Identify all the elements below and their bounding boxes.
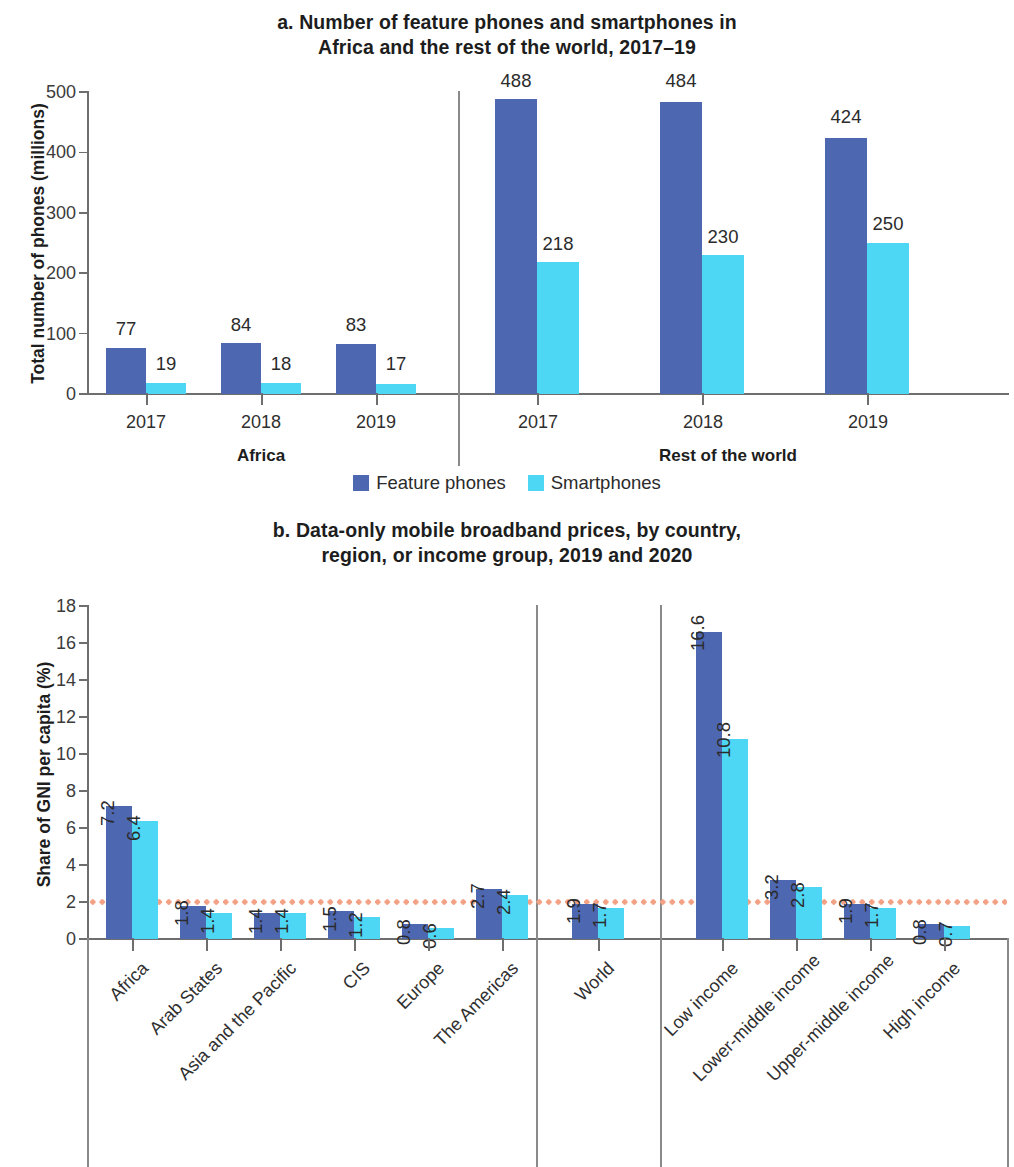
x-tick-mark: [206, 938, 208, 951]
y-tick-mark: [79, 272, 87, 274]
chart-a-group-label-rest-of-world: Rest of the world: [603, 446, 853, 466]
y-tick-mark: [79, 212, 87, 214]
y-tick-label: 300: [16, 202, 76, 223]
bar-smartphones[interactable]: [261, 383, 301, 394]
bar-value-label: 1.7: [589, 902, 611, 928]
bar-smartphones[interactable]: [537, 262, 579, 394]
chart-b-frame-left: [87, 938, 89, 1167]
chart-a-feature-phones-smartphones: a. Number of feature phones and smartpho…: [0, 0, 1014, 510]
y-tick-mark: [79, 152, 87, 154]
bar-value-label: 2.7: [467, 883, 489, 909]
y-tick-label: 4: [18, 855, 76, 876]
bar-value-label: 2.4: [493, 889, 515, 915]
chart-a-group-label-africa: Africa: [161, 446, 361, 466]
bar-smartphones[interactable]: [376, 384, 416, 394]
bar-value-label: 488: [485, 70, 547, 92]
x-category-label: 2017: [96, 412, 196, 433]
y-tick-label: 0: [16, 384, 76, 405]
bar-smartphones[interactable]: [702, 255, 744, 394]
bar-value-label: 218: [527, 233, 589, 255]
bar-value-label: 250: [857, 213, 919, 235]
x-tick-mark: [537, 393, 539, 405]
x-tick-mark: [722, 938, 724, 951]
x-category-label: 2018: [211, 412, 311, 433]
bar-value-label: 77: [96, 318, 156, 340]
chart-a-plot-area: 0 100 200 300 400 500 77 19: [88, 92, 1008, 394]
bar-value-label: 1.4: [197, 908, 219, 934]
y-tick-mark: [79, 91, 87, 93]
bar-value-label: 83: [326, 314, 386, 336]
chart-b-title-line2: region, or income group, 2019 and 2020: [0, 543, 1014, 568]
y-tick-label: 200: [16, 263, 76, 284]
x-tick-mark: [280, 938, 282, 951]
bar-value-label: 1.2: [345, 912, 367, 938]
bar-value-label: 1.4: [245, 908, 267, 934]
x-tick-mark: [702, 393, 704, 405]
bar-value-label: 0.7: [935, 921, 957, 947]
y-tick-label: 0: [18, 929, 76, 950]
chart-b-title: b. Data-only mobile broadband prices, by…: [0, 518, 1014, 568]
legend-item-feature-phones[interactable]: Feature phones: [353, 472, 506, 494]
x-category-label: 2019: [326, 412, 426, 433]
x-tick-mark: [428, 938, 430, 951]
chart-b-y-axis-label: Share of GNI per capita (%): [34, 662, 54, 888]
bar-value-label: 0.8: [393, 919, 415, 945]
bar-value-label: 424: [815, 106, 877, 128]
x-category-label: 2019: [818, 412, 918, 433]
y-tick-label: 2: [18, 892, 76, 913]
x-category-label: Africa: [25, 958, 153, 1086]
chart-b-title-line1: b. Data-only mobile broadband prices, by…: [273, 519, 741, 541]
y-tick-label: 100: [16, 323, 76, 344]
x-tick-mark: [944, 938, 946, 951]
bar-2019[interactable]: [696, 632, 722, 939]
chart-b-mobile-broadband-prices: b. Data-only mobile broadband prices, by…: [0, 516, 1014, 1167]
bar-value-label: 1.7: [861, 902, 883, 928]
x-tick-mark: [354, 938, 356, 951]
bar-value-label: 0.8: [909, 919, 931, 945]
bar-value-label: 19: [136, 353, 196, 375]
x-tick-mark: [796, 938, 798, 951]
bar-value-label: 17: [366, 353, 426, 375]
chart-b-group-separator-2: [660, 605, 662, 1167]
y-tick-mark: [79, 753, 87, 755]
chart-b-group-separator-1: [536, 605, 538, 1167]
chart-a-title: a. Number of feature phones and smartpho…: [0, 10, 1014, 60]
legend-item-smartphones[interactable]: Smartphones: [528, 472, 661, 494]
bar-value-label: 1.9: [563, 898, 585, 924]
y-tick-label: 18: [18, 596, 76, 617]
chart-b-plot-area: 0 2 4 6 8 10 12 14 16 18: [88, 606, 1008, 939]
bar-value-label: 3.2: [761, 874, 783, 900]
chart-a-legend: Feature phones Smartphones: [0, 472, 1014, 494]
bar-smartphones[interactable]: [867, 243, 909, 394]
y-tick-mark: [79, 901, 87, 903]
y-tick-label: 14: [18, 670, 76, 691]
bar-value-label: 1.8: [171, 900, 193, 926]
y-tick-mark: [79, 790, 87, 792]
bar-value-label: 484: [650, 70, 712, 92]
y-tick-label: 8: [18, 781, 76, 802]
x-tick-mark: [376, 393, 378, 405]
chart-b-frame-right: [1007, 938, 1009, 1167]
bar-2020[interactable]: [722, 739, 748, 939]
y-tick-mark: [79, 827, 87, 829]
y-tick-mark: [79, 393, 87, 395]
bar-value-label: 0.6: [419, 923, 441, 949]
y-tick-mark: [79, 716, 87, 718]
legend-swatch-icon: [353, 475, 369, 491]
bar-value-label: 1.9: [835, 898, 857, 924]
bar-value-label: 7.2: [97, 800, 119, 826]
bar-value-label: 16.6: [687, 615, 709, 651]
bar-value-label: 10.8: [713, 722, 735, 758]
x-category-label: 2017: [488, 412, 588, 433]
x-tick-mark: [502, 938, 504, 951]
x-tick-mark: [261, 393, 263, 405]
y-tick-mark: [79, 605, 87, 607]
bar-feature-phones[interactable]: [825, 138, 867, 394]
legend-swatch-icon: [528, 475, 544, 491]
y-tick-mark: [79, 864, 87, 866]
y-tick-mark: [79, 642, 87, 644]
y-tick-label: 400: [16, 142, 76, 163]
bar-value-label: 2.8: [787, 882, 809, 908]
bar-smartphones[interactable]: [146, 383, 186, 395]
chart-a-group-separator: [458, 91, 460, 466]
